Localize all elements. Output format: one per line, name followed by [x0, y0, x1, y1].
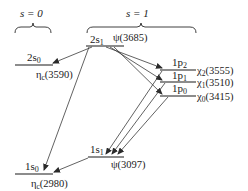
state-label: 2s0: [27, 51, 41, 65]
s0-brace-icon: [15, 23, 51, 33]
particle-label: ψ(3685): [113, 32, 148, 44]
arrow-2s1-to-1p1: [110, 47, 162, 80]
particle-label: ηc(2980): [31, 178, 68, 191]
level-1s0: 1s0 ηc(2980): [15, 160, 68, 191]
transitions: [44, 47, 168, 172]
arrow-1s1-to-1s0: [54, 158, 88, 172]
arrow-1p2-to-1s1: [106, 71, 162, 154]
level-2s1: 2s1 ψ(3685): [86, 32, 148, 47]
particle-label: ψ(3097): [111, 159, 146, 171]
particle-label: ηc(3590): [36, 69, 73, 82]
s1-label: s = 1: [126, 7, 149, 19]
charmonium-level-diagram: s = 0 s = 1 2s1 ψ(3685) 2s0 ηc(3590) 1p2…: [0, 0, 248, 191]
state-label: 1s1: [90, 143, 104, 157]
level-2s0: 2s0 ηc(3590): [15, 51, 73, 82]
particle-label: χ0(3415): [196, 91, 234, 104]
particle-label: χ1(3510): [196, 77, 234, 90]
state-label: 1s0: [25, 160, 39, 174]
state-label: 1p1: [172, 69, 187, 83]
state-label: 1p0: [172, 82, 187, 96]
state-label: 2s1: [90, 33, 104, 47]
spin-0-header: s = 0: [15, 7, 51, 33]
arrow-2s1-to-1p0: [114, 47, 162, 94]
spin-1-header: s = 1: [87, 7, 196, 33]
state-label: 1p2: [172, 56, 187, 70]
arrow-1p1-to-1s1: [112, 83, 165, 154]
s0-label: s = 0: [20, 7, 43, 19]
